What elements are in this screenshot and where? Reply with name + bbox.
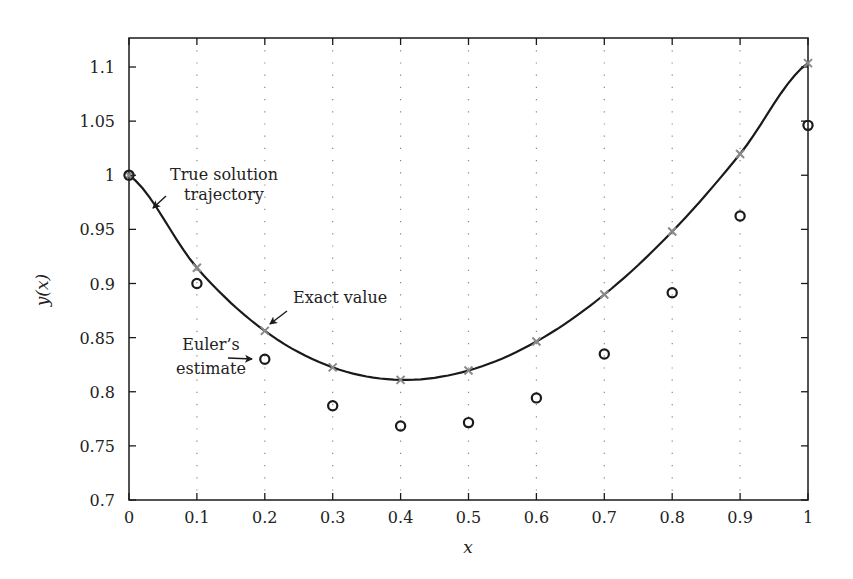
x-tick-label: 0.4 [388,508,413,527]
y-tick-label: 0.85 [79,329,115,348]
x-tick-labels: 00.10.20.30.40.50.60.70.80.91 [124,508,813,527]
exact-value-marker [736,150,744,158]
euler-estimate-marker [192,279,201,288]
annotation-true-solution-line2: trajectory [184,185,264,204]
euler-estimate-marker [532,393,541,402]
arrow-euler-estimate-icon [228,358,252,359]
exact-value-marker [261,327,269,335]
euler-estimate-marker [600,349,609,358]
euler-estimate-marker [668,288,677,297]
x-tick-label: 1 [803,508,813,527]
x-tick-label: 0.7 [592,508,617,527]
y-tick-label: 1.1 [90,58,115,77]
euler-estimate-marker [328,401,337,410]
x-tick-label: 0 [124,508,134,527]
x-tick-label: 0.9 [727,508,752,527]
annotation-euler-line1: Euler’s [182,335,240,354]
plot-frame [129,38,808,500]
euler-estimate-marker [736,211,745,220]
x-tick-label: 0.8 [659,508,684,527]
y-tick-label: 1 [105,166,115,185]
annotation-true-solution-line1: True solution [170,165,278,184]
y-axis-label: y(x) [32,274,52,307]
y-tick-labels: 0.70.750.80.850.90.9511.051.1 [79,58,115,510]
grid-lines [197,38,740,500]
exact-value-marker [600,291,608,299]
x-tick-label: 0.2 [252,508,277,527]
x-tick-label: 0.5 [456,508,481,527]
y-tick-label: 0.8 [90,383,115,402]
x-tick-label: 0.6 [524,508,549,527]
axis-ticks [129,38,808,500]
annotation-exact-value: Exact value [293,288,387,307]
annotation-euler-line2: estimate [176,359,246,378]
y-tick-label: 0.9 [90,275,115,294]
exact-value-marker [532,338,540,346]
chart: 00.10.20.30.40.50.60.70.80.91 0.70.750.8… [0,0,853,579]
y-tick-label: 0.7 [90,491,115,510]
x-axis-label: x [463,537,473,557]
y-tick-label: 0.75 [79,437,115,456]
y-tick-label: 0.95 [79,220,115,239]
euler-estimate-marker [464,418,473,427]
x-tick-label: 0.3 [320,508,345,527]
y-tick-label: 1.05 [79,112,115,131]
arrow-true-solution-icon [153,196,166,208]
arrow-exact-value-icon [270,311,287,324]
x-tick-label: 0.1 [184,508,209,527]
